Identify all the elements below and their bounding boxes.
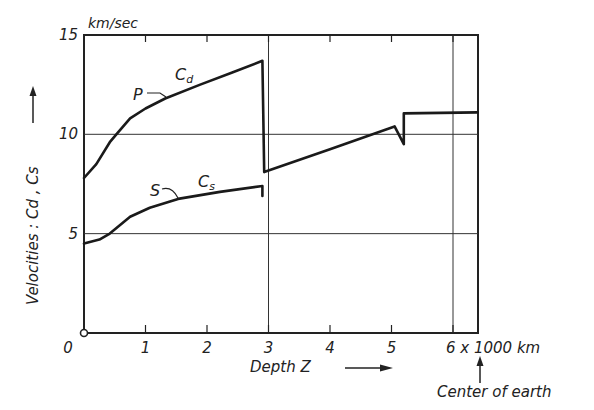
- x-tick-label: 3: [264, 339, 274, 357]
- axes-box: [84, 35, 478, 333]
- origin-marker: [81, 330, 88, 337]
- x-axis-title: Depth Z: [250, 358, 311, 376]
- x-axis-arrow-icon: [345, 365, 393, 372]
- x-tick-label: 2: [202, 339, 212, 357]
- center-arrow-icon: [477, 356, 484, 383]
- s-wave-label: S: [150, 181, 160, 200]
- series-cs: [84, 186, 262, 244]
- s-label-leader: [162, 188, 178, 198]
- velocity-depth-chart: 0123456 x 1000 km51015 km/sec Velocities…: [0, 0, 594, 410]
- y-unit-label: km/sec: [88, 15, 138, 31]
- gridlines: [84, 35, 478, 333]
- axis-ticks: 0123456 x 1000 km51015: [59, 26, 540, 357]
- y-axis-arrow-icon: [30, 86, 37, 123]
- y-tick-label: 10: [59, 125, 78, 143]
- x-tick-label: 1: [141, 339, 151, 357]
- y-tick-label: 15: [59, 26, 78, 44]
- series-cd: [84, 61, 478, 178]
- x-tick-label: 6 x 1000 km: [446, 339, 540, 357]
- x-tick-label: 4: [325, 339, 335, 357]
- y-axis-title: Velocities : Cd , Cs: [24, 166, 42, 305]
- p-wave-label: P: [133, 85, 143, 104]
- plot-frame: [81, 35, 479, 337]
- cs-label: Cs: [198, 172, 215, 193]
- x-tick-label: 5: [387, 339, 397, 357]
- p-label-leader: [147, 93, 166, 97]
- cd-label: Cd: [175, 65, 194, 86]
- center-of-earth-label: Center of earth: [437, 383, 551, 401]
- data-series: [84, 61, 478, 244]
- y-tick-label: 5: [68, 225, 78, 243]
- x-tick-label: 0: [63, 339, 73, 357]
